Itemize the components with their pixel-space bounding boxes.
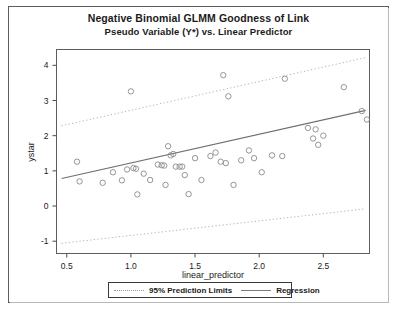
y-tick-label: 4 <box>44 60 49 70</box>
y-axis-label: ystar <box>26 142 36 162</box>
figure-container: Negative Binomial GLMM Goodness of Link … <box>0 0 397 311</box>
legend-item-prediction-limits: 95% Prediction Limits <box>114 283 232 297</box>
dotted-line-swatch-icon <box>114 290 144 291</box>
x-axis-ticks: 0.51.01.52.02.5 <box>61 254 330 271</box>
y-tick-label: 2 <box>44 131 49 141</box>
legend-label-regression: Regression <box>276 286 320 295</box>
x-tick-label: 1.0 <box>125 261 137 271</box>
x-tick-label: 2.0 <box>253 261 265 271</box>
solid-line-swatch-icon <box>241 290 271 291</box>
x-tick-label: 2.5 <box>317 261 329 271</box>
x-tick-label: 1.5 <box>189 261 201 271</box>
y-tick-label: 1 <box>44 166 49 176</box>
legend-item-regression: Regression <box>241 283 320 297</box>
y-tick-label: -1 <box>41 236 49 246</box>
y-tick-label: 3 <box>44 96 49 106</box>
y-tick-label: 0 <box>44 201 49 211</box>
legend-label-prediction-limits: 95% Prediction Limits <box>149 286 232 295</box>
x-tick-label: 0.5 <box>61 261 73 271</box>
x-axis-label: linear_predictor <box>182 270 244 280</box>
scatter-plot: -101234 0.51.01.52.02.5 ystar linear_pre… <box>0 0 397 311</box>
y-axis-ticks: -101234 <box>41 60 57 246</box>
chart-legend: 95% Prediction Limits Regression <box>108 282 292 298</box>
